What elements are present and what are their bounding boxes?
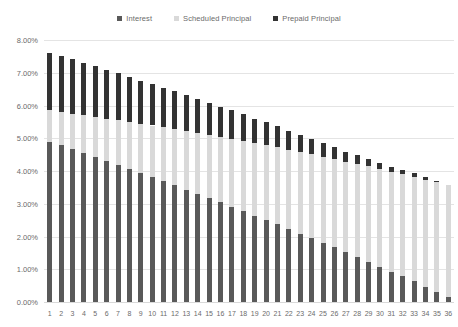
bar-segment[interactable] (229, 207, 234, 302)
bar-group[interactable] (241, 114, 246, 302)
bar-segment[interactable] (150, 126, 155, 178)
bar-segment[interactable] (412, 173, 417, 177)
bar-segment[interactable] (47, 53, 52, 110)
bar-segment[interactable] (161, 127, 166, 181)
bar-segment[interactable] (264, 145, 269, 220)
bar-segment[interactable] (366, 262, 371, 302)
bar-segment[interactable] (70, 114, 75, 150)
bar-segment[interactable] (423, 177, 428, 180)
bar-group[interactable] (412, 173, 417, 302)
bar-segment[interactable] (389, 272, 394, 302)
bar-segment[interactable] (195, 133, 200, 194)
bar-group[interactable] (377, 163, 382, 302)
bar-segment[interactable] (434, 292, 439, 302)
bar-group[interactable] (195, 99, 200, 302)
bar-segment[interactable] (47, 142, 52, 302)
bar-segment[interactable] (184, 190, 189, 302)
bar-segment[interactable] (138, 81, 143, 124)
bar-segment[interactable] (264, 122, 269, 145)
bar-segment[interactable] (218, 137, 223, 203)
bar-segment[interactable] (93, 157, 98, 302)
bar-segment[interactable] (104, 119, 109, 162)
bar-segment[interactable] (138, 173, 143, 302)
bar-segment[interactable] (275, 126, 280, 147)
bar-group[interactable] (343, 152, 348, 302)
bar-segment[interactable] (286, 131, 291, 150)
bar-group[interactable] (389, 167, 394, 302)
bar-group[interactable] (127, 77, 132, 302)
bar-group[interactable] (172, 91, 177, 302)
bar-segment[interactable] (138, 124, 143, 173)
bar-segment[interactable] (286, 229, 291, 302)
bar-group[interactable] (161, 88, 166, 302)
bar-group[interactable] (309, 139, 314, 302)
bar-segment[interactable] (229, 139, 234, 207)
bar-segment[interactable] (275, 224, 280, 302)
bar-segment[interactable] (309, 154, 314, 238)
bar-group[interactable] (47, 53, 52, 302)
bar-segment[interactable] (184, 131, 189, 190)
bar-segment[interactable] (366, 166, 371, 261)
bar-segment[interactable] (218, 202, 223, 302)
bar-group[interactable] (446, 185, 451, 302)
bar-segment[interactable] (298, 135, 303, 152)
bar-segment[interactable] (252, 119, 257, 144)
bar-segment[interactable] (264, 220, 269, 302)
bar-segment[interactable] (127, 122, 132, 169)
bar-segment[interactable] (172, 185, 177, 302)
bar-group[interactable] (400, 170, 405, 302)
bar-segment[interactable] (47, 110, 52, 141)
bar-segment[interactable] (172, 91, 177, 129)
bar-segment[interactable] (93, 117, 98, 157)
bar-segment[interactable] (321, 157, 326, 243)
bar-segment[interactable] (59, 145, 64, 302)
bar-group[interactable] (264, 122, 269, 302)
bar-segment[interactable] (150, 84, 155, 125)
bar-segment[interactable] (81, 63, 86, 115)
bar-group[interactable] (298, 135, 303, 302)
bar-segment[interactable] (412, 177, 417, 281)
bar-group[interactable] (81, 63, 86, 302)
bar-segment[interactable] (81, 115, 86, 153)
bar-segment[interactable] (343, 152, 348, 162)
bar-segment[interactable] (389, 167, 394, 172)
bar-group[interactable] (321, 143, 326, 302)
bar-group[interactable] (229, 110, 234, 302)
bar-segment[interactable] (400, 174, 405, 276)
bar-segment[interactable] (252, 143, 257, 215)
bar-group[interactable] (286, 131, 291, 302)
bar-segment[interactable] (207, 135, 212, 198)
bar-segment[interactable] (286, 150, 291, 229)
bar-segment[interactable] (116, 73, 121, 120)
bar-segment[interactable] (275, 147, 280, 224)
bar-segment[interactable] (332, 247, 337, 302)
bar-segment[interactable] (116, 120, 121, 165)
bar-segment[interactable] (298, 234, 303, 302)
bar-group[interactable] (332, 147, 337, 302)
bar-segment[interactable] (116, 165, 121, 302)
bar-group[interactable] (218, 107, 223, 302)
bar-segment[interactable] (400, 276, 405, 302)
bar-group[interactable] (355, 155, 360, 302)
bar-segment[interactable] (343, 162, 348, 253)
bar-segment[interactable] (434, 182, 439, 291)
bar-segment[interactable] (195, 194, 200, 302)
bar-group[interactable] (138, 81, 143, 302)
bar-segment[interactable] (423, 287, 428, 302)
bar-group[interactable] (252, 119, 257, 302)
bar-segment[interactable] (172, 129, 177, 185)
bar-segment[interactable] (161, 88, 166, 128)
bar-segment[interactable] (321, 243, 326, 302)
bar-segment[interactable] (366, 159, 371, 166)
bar-segment[interactable] (309, 238, 314, 302)
bar-segment[interactable] (400, 170, 405, 174)
bar-segment[interactable] (241, 114, 246, 141)
bar-segment[interactable] (81, 153, 86, 302)
bar-segment[interactable] (70, 149, 75, 302)
bar-segment[interactable] (343, 252, 348, 302)
legend-item-prepaid-principal[interactable]: Prepaid Principal (273, 14, 340, 23)
bar-group[interactable] (93, 66, 98, 302)
bar-segment[interactable] (241, 141, 246, 211)
bar-segment[interactable] (355, 257, 360, 302)
bar-segment[interactable] (93, 66, 98, 117)
